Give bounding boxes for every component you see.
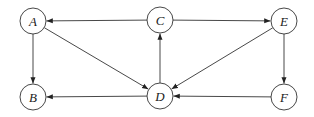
edge-d-to-b: [46, 96, 147, 97]
node-label: E: [279, 14, 288, 29]
edge-f-to-d: [173, 96, 271, 97]
node-e: E: [271, 8, 297, 34]
edge-c-to-e: [173, 20, 271, 21]
node-label: D: [154, 89, 165, 104]
node-f: F: [271, 84, 297, 110]
node-label: F: [279, 90, 289, 105]
node-label: C: [156, 13, 165, 28]
node-d: D: [147, 83, 173, 109]
edge-c-to-a: [46, 20, 147, 21]
nodes: ACEBDF: [20, 7, 297, 110]
node-c: C: [147, 7, 173, 33]
node-label: A: [28, 14, 37, 29]
node-a: A: [20, 8, 46, 34]
node-b: B: [20, 84, 46, 110]
node-label: B: [29, 90, 37, 105]
edge-a-to-d: [44, 28, 148, 90]
directed-graph: ACEBDF: [0, 0, 314, 117]
edge-e-to-d: [172, 28, 273, 89]
